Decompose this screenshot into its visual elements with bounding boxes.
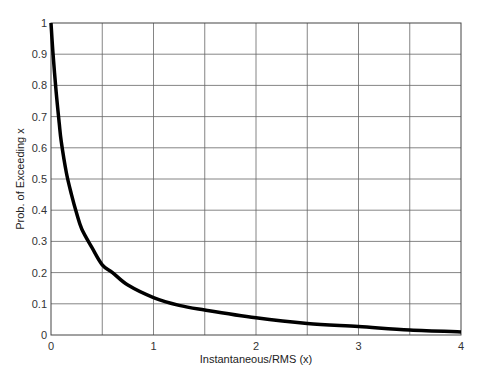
chart: 00.10.20.30.40.50.60.70.80.91 01234 Inst… xyxy=(0,0,478,379)
y-axis-ticks: 00.10.20.30.40.50.60.70.80.91 xyxy=(32,17,47,341)
x-axis-label: Instantaneous/RMS (x) xyxy=(200,353,313,365)
y-tick-label: 0.1 xyxy=(32,298,47,310)
y-tick-label: 1 xyxy=(41,17,47,29)
x-axis-ticks: 01234 xyxy=(48,340,464,352)
y-tick-label: 0 xyxy=(41,329,47,341)
x-tick-label: 0 xyxy=(48,340,54,352)
y-tick-label: 0.3 xyxy=(32,235,47,247)
y-tick-label: 0.6 xyxy=(32,142,47,154)
y-tick-label: 0.7 xyxy=(32,111,47,123)
y-tick-label: 0.2 xyxy=(32,267,47,279)
y-tick-label: 0.8 xyxy=(32,79,47,91)
x-tick-label: 1 xyxy=(150,340,156,352)
y-tick-label: 0.9 xyxy=(32,48,47,60)
x-tick-label: 4 xyxy=(458,340,464,352)
y-axis-label: Prob. of Exceeding x xyxy=(14,128,26,230)
x-tick-label: 2 xyxy=(253,340,259,352)
y-tick-label: 0.4 xyxy=(32,204,47,216)
x-tick-label: 3 xyxy=(355,340,361,352)
grid-lines xyxy=(51,23,461,335)
y-tick-label: 0.5 xyxy=(32,173,47,185)
